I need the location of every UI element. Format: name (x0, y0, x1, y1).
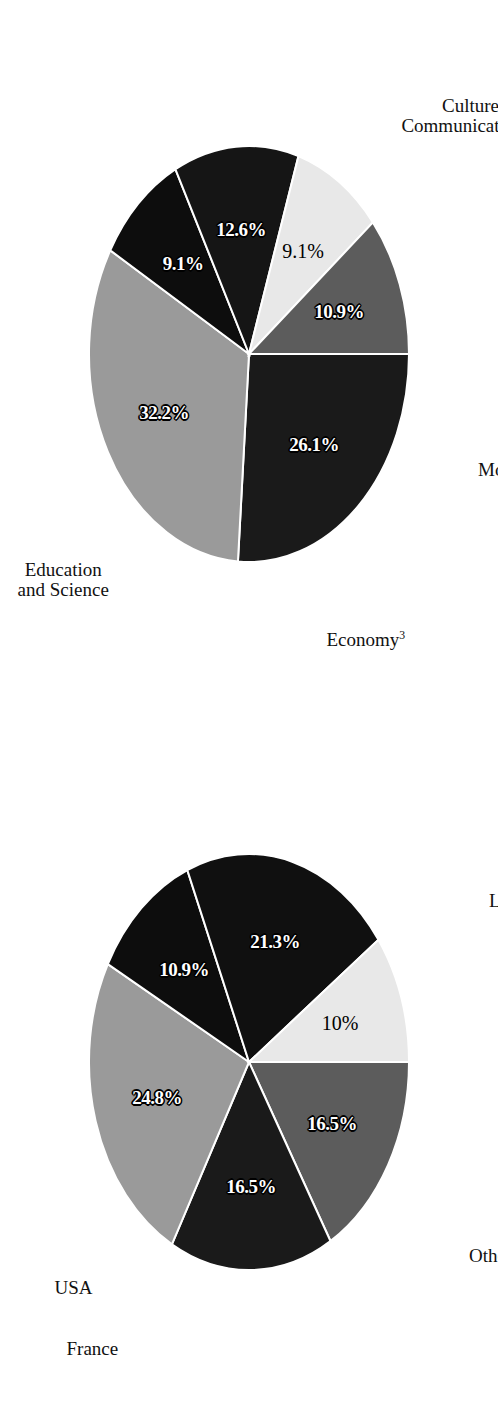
pie-chart-figure-top: Culture and Communications General Other… (0, 0, 498, 708)
category-label-other: Other (455, 199, 498, 240)
category-label-africa: Africa (459, 1089, 498, 1130)
category-label-europe: Europe2 (351, 793, 498, 834)
category-label-economy: Economy3 (326, 609, 476, 650)
pie-graphic-top (89, 146, 409, 562)
category-label-france: France (66, 1318, 216, 1359)
pie-graphic-bottom (89, 854, 409, 1270)
category-label-general: General (377, 85, 498, 126)
category-label-latin-america: Latin America (418, 870, 498, 911)
pie-slice (238, 354, 409, 562)
footnote-marker-economy: 3 (399, 629, 405, 642)
category-label-culture-and-communications: Culture and Communications (319, 75, 498, 137)
figure-plate: Culture and Communications General Other… (0, 0, 498, 1416)
category-label-other-region: Other1 (393, 1225, 498, 1266)
category-label-movement-of-persons: Movement of Persons (431, 439, 498, 480)
rotated-chart-frame-bottom: Europe2 Latin America Africa Other1 USA … (0, 708, 498, 1416)
rotated-chart-frame-top: Culture and Communications General Other… (0, 0, 498, 708)
pie-chart-figure-bottom: Europe2 Latin America Africa Other1 USA … (0, 708, 498, 1416)
